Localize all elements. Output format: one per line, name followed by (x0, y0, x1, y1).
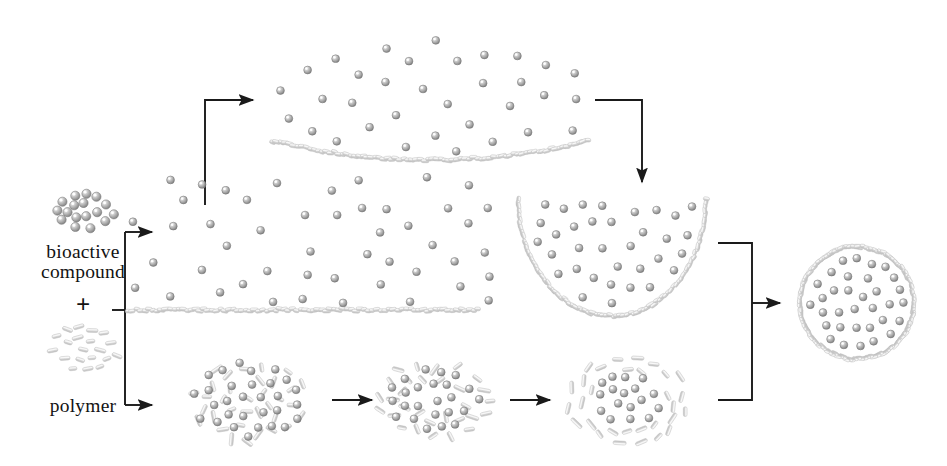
bioactive-particle (452, 147, 460, 155)
polymer-rod (102, 356, 111, 362)
bioactive-particle (460, 407, 468, 415)
polymer-rod (612, 357, 623, 361)
bioactive-particle (465, 219, 473, 227)
polymer-rod (570, 381, 574, 394)
bioactive-particle (627, 403, 635, 411)
bioactive-particle (198, 266, 206, 274)
polymer-rod (255, 374, 266, 386)
polymer-rod (446, 431, 454, 443)
bioactive-particle (870, 337, 878, 345)
bioactive-particle (844, 273, 852, 281)
polymer-rod (52, 333, 62, 339)
label-layer: bioactive compound + polymer (41, 241, 125, 416)
bioactive-particle (866, 324, 874, 332)
bioactive-particle (131, 284, 139, 292)
bioactive-particle (873, 288, 881, 296)
bioactive-particle (260, 408, 268, 416)
bioactive-particle (292, 386, 300, 394)
polymer-cluster (47, 323, 123, 371)
bioactive-particle (513, 52, 521, 60)
polymer-rod (283, 367, 293, 376)
bioactive-particle (598, 379, 606, 387)
bioactive-particle (205, 371, 213, 379)
bioactive-particle (575, 244, 583, 252)
bioactive-label-line1: bioactive (46, 241, 119, 262)
bioactive-particle (223, 242, 231, 250)
bioactive-particle (621, 373, 629, 381)
bioactive-particle (859, 293, 867, 301)
bioactive-particle (58, 197, 67, 206)
bioactive-particle (53, 206, 62, 215)
bioactive-particle (890, 274, 898, 282)
bioactive-particle (423, 173, 431, 181)
bioactive-particle (304, 271, 312, 279)
bioactive-particle (639, 374, 647, 382)
polymer-rod (579, 396, 586, 410)
bioactive-particle (205, 386, 213, 394)
bioactive-particle (569, 127, 577, 135)
polymer-rod (650, 420, 659, 430)
bioactive-particle (239, 393, 247, 401)
bioactive-particle (579, 293, 587, 301)
bioactive-particle (451, 421, 459, 429)
bioactive-particle (655, 255, 663, 263)
bioactive-particle (239, 280, 247, 288)
bioactive-particle (348, 99, 356, 107)
polymer-rod (392, 366, 405, 373)
bioactive-particle (573, 265, 581, 273)
polymer-rod (584, 361, 594, 373)
bioactive-particle (101, 217, 110, 226)
bioactive-particle (339, 299, 347, 307)
polymer-rod (485, 399, 495, 404)
bioactive-particle (383, 45, 391, 53)
bioactive-particle (239, 412, 247, 420)
bioactive-particle (355, 176, 363, 184)
bioactive-particle (485, 297, 493, 305)
polymer-rod (595, 364, 607, 372)
polymer-rod (472, 374, 483, 383)
bioactive-particle (214, 418, 222, 426)
bioactive-particle (402, 143, 410, 151)
bioactive-particle (422, 366, 430, 374)
bioactive-particle (607, 415, 615, 423)
bioactive-particle (413, 268, 421, 276)
bioactive-particle (166, 293, 174, 301)
polymer-rod (88, 356, 96, 360)
bioactive-particle (588, 218, 596, 226)
diagram-canvas: bioactive compound + polymer (0, 0, 947, 466)
bioactive-particle (886, 300, 894, 308)
polymer-rod (480, 410, 492, 416)
bioactive-particle (401, 375, 409, 383)
polymer-rod (683, 407, 687, 417)
bioactive-particle (79, 198, 88, 207)
bioactive-particle (82, 212, 91, 221)
bioactive-particle (71, 222, 80, 231)
polymer-rod (581, 374, 586, 387)
polymer-rod (73, 323, 85, 330)
bioactive-particle (650, 390, 658, 398)
bioactive-particle (419, 85, 427, 93)
polymer-rod (678, 391, 685, 403)
polymer-rod (648, 362, 659, 367)
bioactive-particle (444, 204, 452, 212)
bioactive-particle (653, 206, 661, 214)
emulsion-blob-3-rods (565, 356, 687, 446)
bioactive-particle (590, 274, 598, 282)
bioactive-particle (277, 87, 285, 95)
bioactive-particle (392, 111, 400, 119)
bioactive-particle (434, 397, 442, 405)
bioactive-particle (609, 385, 617, 393)
bioactive-particle (382, 78, 390, 86)
polymer-rod (259, 363, 264, 373)
bioactive-particle (401, 402, 409, 410)
bioactive-particle (627, 284, 635, 292)
polymer-rod (453, 384, 466, 393)
bioactive-particle (684, 231, 692, 239)
polymer-rod (520, 232, 526, 240)
bioactive-particle (376, 229, 384, 237)
bioactive-particle (57, 215, 66, 224)
bioactive-particle (377, 281, 385, 289)
bioactive-particle (383, 205, 391, 213)
bioactive-particle (405, 57, 413, 65)
bioactive-particle (225, 411, 233, 419)
